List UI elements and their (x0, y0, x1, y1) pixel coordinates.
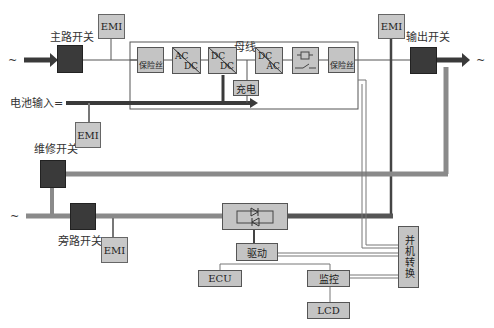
inverter-top: DC (256, 51, 282, 61)
emi-filter-output: EMI (378, 14, 405, 39)
dcdc-top: DC (209, 51, 236, 61)
inverter-bottom: AC (256, 61, 282, 71)
bypass-switch (70, 203, 96, 230)
rectifier-block: AC DC (172, 47, 201, 74)
rectifier-top: AC (173, 51, 200, 61)
bypass-switch-label: 旁路开关 (58, 236, 102, 248)
static-switch-block (222, 203, 288, 230)
inverter-block: DC AC (255, 47, 283, 74)
parallel-conversion-block: 并机转换 (398, 226, 419, 288)
dcdc-bottom: DC (209, 61, 236, 71)
monitor-block: 监控 (307, 270, 350, 287)
lcd-block: LCD (307, 302, 350, 319)
relay-block (292, 47, 319, 74)
emi-filter-bypass: EMI (101, 237, 128, 263)
ac-input-symbol: ~ (8, 55, 17, 67)
main-switch (57, 45, 83, 73)
ups-block-diagram: ~ ~ ~ 主路开关 输出开关 电池输入= 维修开关 旁路开关 母线 EMI E… (0, 0, 494, 328)
driver-block: 驱动 (236, 243, 278, 261)
ac-output-symbol: ~ (476, 55, 485, 67)
input-fuse-block: 保险丝 (137, 47, 164, 73)
parallel-conversion-label: 并机转换 (401, 235, 416, 279)
output-switch (410, 47, 437, 74)
charger-block: 充电 (233, 80, 259, 96)
battery-input-label: 电池输入= (10, 98, 63, 110)
maintenance-switch-label: 维修开关 (34, 144, 78, 156)
output-fuse-block: 保险丝 (328, 47, 355, 73)
relay-icon (293, 48, 318, 73)
bypass-input-symbol: ~ (10, 211, 19, 223)
thyristor-pair-icon (235, 206, 275, 228)
output-switch-label: 输出开关 (406, 32, 450, 44)
dcdc-block: DC DC (208, 47, 237, 74)
ecu-block: ECU (198, 270, 242, 287)
bus-label: 母线 (234, 42, 256, 54)
maintenance-switch (40, 160, 66, 188)
main-switch-label: 主路开关 (50, 32, 94, 44)
emi-filter-battery: EMI (75, 122, 101, 148)
rectifier-bottom: DC (173, 61, 200, 71)
emi-filter-main: EMI (98, 14, 125, 39)
